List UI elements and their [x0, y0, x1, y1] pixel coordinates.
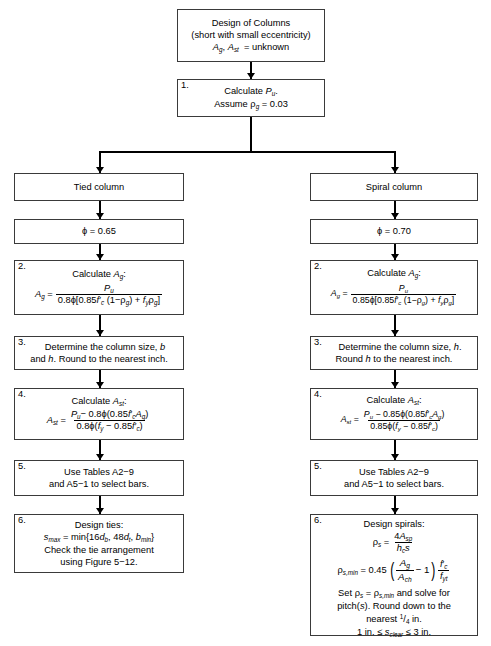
node-tied-step-2: 2. Calculate Ag: Ag = Pu 0.8ϕ[0.85f′c (1…	[14, 260, 184, 315]
tied-step-5-line-2: and A5−1 to select bars.	[49, 478, 149, 490]
tied-step-5-line-1: Use Tables A2−9	[64, 466, 134, 478]
connector-split-horizontal	[99, 151, 396, 153]
spiral-step-2-number: 2.	[314, 262, 322, 271]
step-1-line-2: Assume ρg = 0.03	[214, 98, 288, 111]
spiral-step-5-line-2: and A5−1 to select bars.	[344, 478, 444, 490]
start-line-2: (short with small eccentricity)	[191, 29, 310, 41]
spiral-step-6-title: Design spirals:	[364, 518, 425, 530]
spiral-step-2-equation: Ag = Pu 0.85ϕ[0.85f′c (1−ρg) + fyρg]	[331, 283, 457, 307]
node-spiral-step-3: 3. Determine the column size, h. Round h…	[310, 336, 478, 370]
spiral-column-header-label: Spiral column	[366, 181, 422, 193]
tied-step-3-line-2: and h. Round to the nearest inch.	[30, 353, 168, 365]
spiral-step-4-number: 4.	[314, 390, 322, 399]
tied-step-6-line-3: Check the tie arrangement	[44, 544, 154, 556]
spiral-step-4-caption: Calculate Ast:	[366, 394, 421, 407]
tied-column-header-label: Tied column	[74, 181, 124, 193]
tied-step-3-line-1: Determine the column size, b	[45, 341, 165, 353]
tied-step-6-number: 6.	[18, 516, 26, 525]
node-tied-phi: ϕ = 0.65	[14, 219, 184, 244]
start-line-1: Design of Columns	[212, 17, 291, 29]
spiral-step-6-number: 6.	[314, 516, 322, 525]
spiral-step-4-equation: Ast = Pu − 0.85ϕ(0.85f′cAg) 0.85ϕ(fy − 0…	[341, 409, 448, 433]
spiral-step-6-line-c: nearest 1/4 in.	[366, 613, 422, 626]
spiral-step-3-line-2: Round h to the nearest inch.	[336, 353, 453, 365]
tied-step-4-caption: Calculate Ast:	[71, 395, 126, 408]
node-spiral-step-2: 2. Calculate Ag: Ag = Pu 0.85ϕ[0.85f′c (…	[310, 260, 478, 315]
spiral-step-6-line-b: pitch(s). Round down to the	[337, 600, 451, 612]
spiral-step-3-line-1: Determine the column size, h.	[339, 341, 462, 353]
start-line-3: Ag, Ast = unknown	[213, 41, 289, 54]
node-tied-column-header: Tied column	[14, 173, 184, 201]
spiral-step-6-equation-rho-s-min: ρs,min = 0.45 ( Ag Ach − 1 ) f′c fyt	[338, 557, 451, 583]
spiral-step-5-number: 5.	[314, 462, 322, 471]
node-spiral-phi: ϕ = 0.70	[310, 219, 478, 244]
node-spiral-step-5: 5. Use Tables A2−9 and A5−1 to select ba…	[310, 460, 478, 496]
connector-step1-down	[250, 117, 252, 153]
step-1-number: 1.	[181, 81, 189, 90]
node-spiral-step-6: 6. Design spirals: ρs = 4Asp hcs ρs,min …	[310, 514, 478, 636]
tied-step-2-equation: Ag = Pu 0.8ϕ[0.85f′c (1−ρg) + fyρg]	[35, 283, 163, 306]
spiral-step-3-number: 3.	[314, 338, 322, 347]
node-tied-step-6: 6. Design ties: smax = min{16db, 48dt, b…	[14, 514, 184, 573]
tied-step-2-caption: Calculate Ag:	[72, 268, 126, 281]
tied-step-4-equation: Ast = Pu− 0.8ϕ(0.85f′cAg) 0.8ϕ(fy − 0.85…	[47, 409, 152, 432]
step-1-line-1: Calculate Pu.	[224, 85, 278, 98]
spiral-step-5-line-1: Use Tables A2−9	[359, 466, 429, 478]
tied-step-2-number: 2.	[18, 262, 26, 271]
tied-step-6-line-2: smax = min{16db, 48dt, bmin}	[44, 531, 154, 544]
tied-step-6-line-4: using Figure 5−12.	[60, 556, 137, 568]
spiral-step-6-line-d: 1 in. ≤ sclear ≤ 3 in.	[357, 626, 431, 639]
tied-step-3-number: 3.	[18, 338, 26, 347]
spiral-step-2-caption: Calculate Ag:	[367, 267, 421, 280]
node-tied-step-3: 3. Determine the column size, b and h. R…	[14, 336, 184, 370]
node-design-of-columns: Design of Columns (short with small ecce…	[177, 9, 325, 62]
flowchart-canvas: Design of Columns (short with small ecce…	[0, 0, 491, 646]
spiral-step-6-equation-rho-s: ρs = 4Asp hcs	[373, 531, 416, 554]
spiral-step-6-line-a: Set ρs = ρs,min and solve for	[338, 587, 450, 600]
node-step-1-calculate-pu: 1. Calculate Pu. Assume ρg = 0.03	[177, 79, 325, 117]
node-spiral-step-4: 4. Calculate Ast: Ast = Pu − 0.85ϕ(0.85f…	[310, 388, 478, 440]
spiral-phi-label: ϕ = 0.70	[377, 225, 411, 237]
node-spiral-column-header: Spiral column	[310, 173, 478, 201]
tied-phi-label: ϕ = 0.65	[82, 225, 116, 237]
tied-step-6-line-1: Design ties:	[75, 519, 124, 531]
tied-step-5-number: 5.	[18, 462, 26, 471]
tied-step-4-number: 4.	[18, 390, 26, 399]
node-tied-step-5: 5. Use Tables A2−9 and A5−1 to select ba…	[14, 460, 184, 496]
node-tied-step-4: 4. Calculate Ast: Ast = Pu− 0.8ϕ(0.85f′c…	[14, 388, 184, 440]
